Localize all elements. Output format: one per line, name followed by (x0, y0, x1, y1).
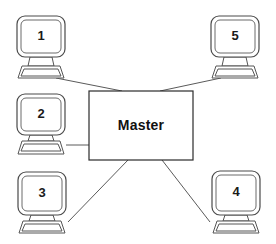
monitor-base-inner-icon (216, 224, 256, 231)
monitor-base-inner-icon (215, 69, 255, 76)
computer-monitor-icon (18, 172, 66, 233)
monitor-base-inner-icon (21, 144, 61, 151)
node-4-label: 4 (232, 184, 240, 199)
node-2-label: 2 (37, 106, 44, 121)
node-1-label: 1 (37, 28, 44, 43)
monitor-neck-icon (222, 57, 248, 66)
computer-monitor-icon (212, 171, 260, 233)
node-2[interactable]: 2 (17, 94, 65, 154)
monitor-neck-icon (28, 57, 54, 66)
monitor-neck-icon (29, 215, 55, 221)
master-label: Master (118, 117, 165, 133)
computer-monitor-icon (17, 16, 65, 78)
node-3[interactable]: 3 (18, 172, 66, 233)
node-1[interactable]: 1 (17, 16, 65, 78)
link-3-master (68, 160, 128, 222)
monitor-neck-icon (223, 215, 249, 221)
node-5[interactable]: 5 (211, 16, 259, 78)
node-3-label: 3 (38, 185, 45, 200)
diagram-canvas: Master 1 5 (0, 0, 276, 244)
node-4[interactable]: 4 (212, 171, 260, 233)
network-diagram: Master 1 5 (0, 0, 276, 244)
computer-monitor-icon (211, 16, 259, 78)
monitor-base-inner-icon (22, 224, 62, 231)
master-node[interactable]: Master (89, 91, 193, 160)
monitor-base-inner-icon (21, 69, 61, 76)
node-5-label: 5 (231, 28, 238, 43)
link-1-master (56, 78, 122, 91)
monitor-neck-icon (28, 135, 54, 141)
link-4-master (162, 160, 210, 222)
computer-monitor-icon (17, 94, 65, 154)
link-5-master (160, 78, 221, 91)
